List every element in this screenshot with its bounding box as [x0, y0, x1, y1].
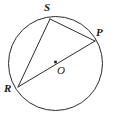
center-point-dot	[54, 61, 57, 64]
geometry-canvas	[0, 0, 113, 122]
point-label-r: R	[4, 83, 11, 94]
circle-shape	[9, 17, 103, 111]
geometry-figure: S P R O	[0, 0, 113, 122]
point-label-s: S	[44, 2, 50, 13]
center-label-o: O	[57, 65, 65, 76]
point-label-p: P	[96, 27, 103, 38]
